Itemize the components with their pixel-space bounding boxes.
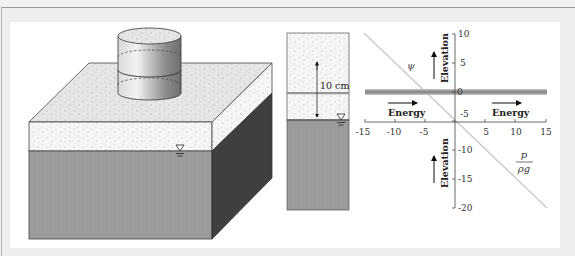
column-saturated-zone (287, 120, 349, 210)
y-tick-label: 0 (457, 87, 463, 97)
elevation-label-upper: Elevation (439, 33, 450, 83)
y-tick-label: 10 (458, 29, 470, 39)
y-tick-label: 5 (460, 58, 466, 68)
psi-label: ψ (407, 60, 415, 71)
distance-label: 10 cm (320, 80, 349, 91)
y-tick-label: -10 (458, 145, 473, 155)
y-tick-label: -15 (458, 174, 473, 184)
x-tick-label: 10 (510, 127, 522, 137)
x-tick-label: -15 (356, 127, 371, 137)
energy-label-right: Energy (492, 107, 530, 118)
pressure-denominator: ρg (517, 163, 530, 174)
x-tick-label: 15 (540, 127, 552, 137)
front-unsaturated-zone (29, 122, 212, 151)
y-tick-label: -20 (458, 203, 473, 213)
y-tick-label: -5 (460, 109, 469, 119)
water-table-band (365, 89, 547, 95)
diagonal-potential-line (364, 33, 547, 208)
soil-column: 10 cm (287, 33, 349, 210)
x-tick-label: -10 (387, 127, 402, 137)
infiltrometer-cylinder (118, 28, 181, 100)
front-saturated-zone (29, 151, 212, 239)
x-tick-label: 5 (483, 127, 489, 137)
pressure-numerator: p (521, 149, 528, 160)
x-tick-label: -5 (420, 127, 429, 137)
elevation-label-lower: Elevation (439, 138, 450, 188)
energy-label-left: Energy (388, 107, 426, 118)
energy-chart: -15 -10 -5 5 10 15 10 5 0 -5 -10 -15 -20 (356, 29, 552, 213)
